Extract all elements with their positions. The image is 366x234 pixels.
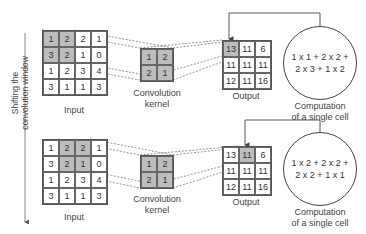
computation-label: Computation of a single cell: [280, 101, 360, 123]
input-cell: 0: [91, 156, 107, 172]
input-cell: 1: [75, 188, 91, 204]
input-cell: 1: [59, 188, 75, 204]
input-cell: 0: [91, 47, 107, 63]
output-cell: 11: [223, 57, 239, 73]
kernel-cell: 1: [157, 65, 173, 81]
output-cell: 11: [255, 163, 271, 179]
output-cell: 11: [255, 57, 271, 73]
input-cell: 1: [43, 140, 59, 156]
input-cell: 3: [43, 188, 59, 204]
input-cell: 3: [75, 63, 91, 79]
input-grid: 1221321012343113: [42, 30, 108, 96]
output-cell: 6: [255, 41, 271, 57]
input-cell: 1: [91, 140, 107, 156]
output-cell: 11: [239, 73, 255, 89]
input-cell: 3: [43, 47, 59, 63]
input-label: Input: [42, 105, 106, 116]
output-cell: 11: [239, 179, 255, 195]
output-cell: 11: [223, 163, 239, 179]
input-cell: 4: [91, 172, 107, 188]
input-cell: 4: [91, 63, 107, 79]
input-cell: 2: [59, 172, 75, 188]
computation-circle: 1 x 1 + 2 x 2 + 2 x 3 + 1 x 2: [283, 26, 357, 100]
input-label: Input: [42, 212, 106, 223]
output-cell: 12: [223, 179, 239, 195]
kernel-label: Convolution kernel: [120, 194, 194, 216]
input-cell: 3: [43, 156, 59, 172]
input-cell: 3: [75, 172, 91, 188]
input-cell: 3: [43, 79, 59, 95]
input-cell: 1: [91, 31, 107, 47]
input-cell: 3: [91, 79, 107, 95]
output-label: Output: [218, 91, 274, 102]
input-cell: 1: [75, 79, 91, 95]
input-cell: 2: [59, 47, 75, 63]
kernel-cell: 2: [157, 49, 173, 65]
kernel-cell: 1: [141, 49, 157, 65]
kernel-cell: 1: [157, 172, 173, 188]
input-grid: 1221321012343113: [42, 139, 108, 205]
kernel-cell: 2: [141, 65, 157, 81]
input-cell: 1: [43, 31, 59, 47]
output-label: Output: [218, 197, 274, 208]
output-grid: 13116111111121116: [222, 40, 272, 90]
input-cell: 1: [59, 79, 75, 95]
input-cell: 2: [59, 156, 75, 172]
output-grid: 13116111111121116: [222, 146, 272, 196]
input-cell: 1: [75, 156, 91, 172]
input-cell: 1: [75, 47, 91, 63]
input-cell: 2: [59, 31, 75, 47]
computation-label: Computation of a single cell: [280, 207, 360, 229]
kernel-cell: 2: [157, 156, 173, 172]
kernel-grid: 1221: [140, 48, 174, 82]
output-cell: 13: [223, 147, 239, 163]
input-cell: 2: [59, 63, 75, 79]
output-cell: 16: [255, 179, 271, 195]
kernel-cell: 1: [141, 156, 157, 172]
kernel-grid: 1221: [140, 155, 174, 189]
output-cell: 11: [239, 41, 255, 57]
output-cell: 6: [255, 147, 271, 163]
output-cell: 11: [239, 163, 255, 179]
input-cell: 2: [59, 140, 75, 156]
output-cell: 16: [255, 73, 271, 89]
input-cell: 1: [43, 63, 59, 79]
output-cell: 13: [223, 41, 239, 57]
output-cell: 11: [239, 147, 255, 163]
input-cell: 2: [75, 31, 91, 47]
kernel-label: Convolution kernel: [120, 88, 194, 110]
computation-circle: 1 x 2 + 2 x 2 + 2 x 2 + 1 x 1: [283, 132, 357, 206]
kernel-cell: 2: [141, 172, 157, 188]
output-cell: 11: [239, 57, 255, 73]
input-cell: 3: [91, 188, 107, 204]
input-cell: 2: [75, 140, 91, 156]
shift-label: Shifting the convolution window: [10, 38, 30, 148]
output-cell: 12: [223, 73, 239, 89]
input-cell: 1: [43, 172, 59, 188]
